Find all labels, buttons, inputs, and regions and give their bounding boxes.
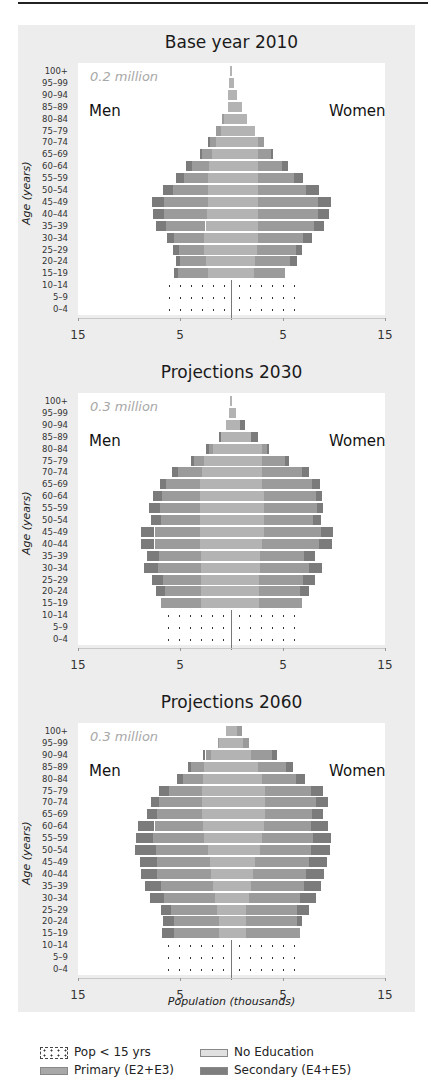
age-group-label: 0–4 xyxy=(8,634,68,644)
men-primary-bar xyxy=(173,185,208,195)
men-no-education-bar xyxy=(201,563,231,573)
women-no-education-bar xyxy=(231,893,249,903)
women-secondary-bar xyxy=(318,209,329,219)
women-primary-bar xyxy=(249,893,300,903)
men-label: Men xyxy=(89,432,121,450)
men-primary-bar xyxy=(216,126,221,136)
age-group-label: 80–84 xyxy=(8,114,68,124)
women-no-education-bar xyxy=(231,173,258,183)
medium-swatch-icon xyxy=(40,1067,68,1075)
men-secondary-bar xyxy=(163,185,173,195)
x-tick xyxy=(180,318,181,321)
men-primary-bar xyxy=(156,845,208,855)
women-under-15-bar xyxy=(231,280,300,290)
women-no-education-bar xyxy=(231,408,236,418)
women-no-education-bar xyxy=(231,197,258,207)
men-no-education-bar xyxy=(202,797,231,807)
women-no-education-bar xyxy=(231,209,258,219)
women-secondary-bar xyxy=(304,881,320,891)
men-no-education-bar xyxy=(208,173,231,183)
x-tick-label: 15 xyxy=(63,658,93,672)
women-no-education-bar xyxy=(231,66,232,76)
men-secondary-bar xyxy=(156,221,166,231)
age-group-label: 100+ xyxy=(8,726,68,736)
women-secondary-bar xyxy=(240,420,245,430)
men-no-education-bar xyxy=(200,491,231,501)
women-primary-bar xyxy=(262,479,312,489)
men-secondary-bar xyxy=(188,762,191,772)
x-tick xyxy=(78,648,79,651)
women-primary-bar xyxy=(262,467,303,477)
men-primary-bar xyxy=(194,456,204,466)
women-secondary-bar xyxy=(294,173,303,183)
women-secondary-bar xyxy=(303,575,314,585)
men-primary-bar xyxy=(162,491,201,501)
age-group-label: 90–94 xyxy=(8,750,68,760)
men-no-education-bar xyxy=(206,221,232,231)
women-primary-bar xyxy=(259,598,303,608)
age-group-label: 70–74 xyxy=(8,467,68,477)
men-primary-bar xyxy=(209,444,213,454)
age-group-label: 85–89 xyxy=(8,762,68,772)
men-secondary-bar xyxy=(203,750,205,760)
women-primary-bar xyxy=(258,209,318,219)
women-no-education-bar xyxy=(231,750,251,760)
men-secondary-bar xyxy=(172,467,178,477)
women-primary-bar xyxy=(257,245,297,255)
age-group-label: 70–74 xyxy=(8,797,68,807)
age-group-label: 15–19 xyxy=(8,928,68,938)
women-primary-bar xyxy=(255,256,290,266)
x-axis-line xyxy=(78,978,385,979)
women-no-education-bar xyxy=(231,774,262,784)
women-no-education-bar xyxy=(231,833,262,843)
pyramid-panel: Base year 20100.2 millionMenWomenAge (ye… xyxy=(0,25,431,355)
men-secondary-bar xyxy=(174,268,178,278)
age-group-label: 10–14 xyxy=(8,610,68,620)
women-no-education-bar xyxy=(231,881,251,891)
age-group-label: 55–59 xyxy=(8,503,68,513)
age-group-label: 25–29 xyxy=(8,575,68,585)
women-secondary-bar xyxy=(316,491,322,501)
age-group-label: 70–74 xyxy=(8,137,68,147)
men-no-education-bar xyxy=(211,869,231,879)
legend-item-pop-under-15: Pop < 15 yrs xyxy=(40,1045,151,1059)
men-label: Men xyxy=(89,102,121,120)
men-secondary-bar xyxy=(208,137,210,147)
age-group-label: 95–99 xyxy=(8,78,68,88)
women-primary-bar xyxy=(262,774,297,784)
women-secondary-bar xyxy=(285,456,289,466)
women-label: Women xyxy=(329,762,385,780)
women-no-education-bar xyxy=(231,444,262,454)
age-group-label: 65–69 xyxy=(8,479,68,489)
age-group-label: 45–49 xyxy=(8,197,68,207)
age-group-label: 10–14 xyxy=(8,280,68,290)
men-secondary-bar xyxy=(219,432,221,442)
women-primary-bar xyxy=(259,575,304,585)
age-group-label: 100+ xyxy=(8,66,68,76)
men-no-education-bar xyxy=(224,114,231,124)
men-primary-bar xyxy=(165,586,202,596)
men-secondary-bar xyxy=(149,503,159,513)
women-secondary-bar xyxy=(313,515,321,525)
women-secondary-bar xyxy=(282,161,288,171)
men-under-15-bar xyxy=(160,622,231,632)
women-primary-bar xyxy=(258,161,282,171)
panel-title: Projections 2060 xyxy=(0,692,431,712)
age-group-label: 75–79 xyxy=(8,456,68,466)
women-secondary-bar xyxy=(306,185,318,195)
men-no-education-bar xyxy=(204,245,231,255)
age-group-label: 75–79 xyxy=(8,786,68,796)
men-under-15-bar xyxy=(160,634,231,644)
women-under-15-bar xyxy=(231,610,299,620)
women-secondary-bar xyxy=(309,857,327,867)
men-no-education-bar xyxy=(206,256,232,266)
men-primary-bar xyxy=(159,797,203,807)
age-group-label: 60–64 xyxy=(8,491,68,501)
men-no-education-bar xyxy=(219,916,231,926)
age-group-label: 35–39 xyxy=(8,551,68,561)
age-group-label: 20–24 xyxy=(8,256,68,266)
men-no-education-bar xyxy=(219,738,231,748)
women-secondary-bar xyxy=(313,833,331,843)
men-primary-bar xyxy=(206,750,211,760)
women-secondary-bar xyxy=(297,905,308,915)
